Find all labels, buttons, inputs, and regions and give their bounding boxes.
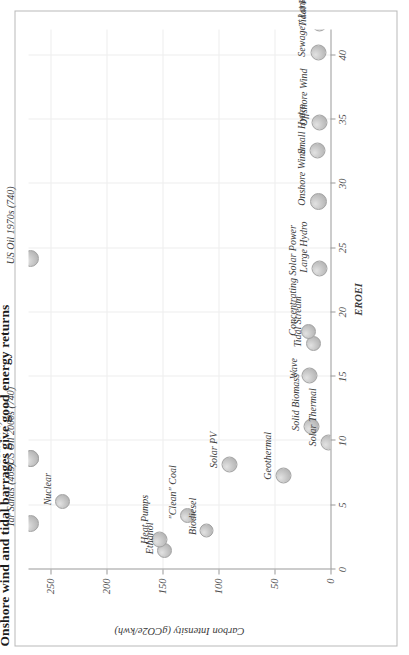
data-point [301, 367, 317, 383]
data-point-label: Heat Pumps [138, 494, 149, 543]
data-point [309, 142, 325, 158]
data-point-label: Solid Biomass [289, 373, 300, 430]
data-point-label: Solar PV [207, 431, 218, 467]
data-point-label: US Oil 1970s (740) [4, 186, 15, 264]
x-tick [330, 375, 335, 376]
data-point-label: Coal (974) [0, 421, 1, 465]
data-point-label: Geothermal [261, 431, 272, 479]
data-point-label: Offshore Wind [297, 68, 308, 126]
data-point [311, 260, 327, 276]
y-tick-label: 150 [157, 578, 168, 594]
x-tick [330, 247, 335, 248]
x-tick [330, 182, 335, 183]
chart-title: Onshore wind and tidal barrages give goo… [0, 6, 12, 646]
data-point [320, 434, 330, 450]
plot-area: 0510152025303540050100150200250 Tar Sand… [28, 29, 330, 569]
data-point [310, 44, 326, 60]
data-point [199, 523, 213, 537]
y-tick [106, 569, 107, 574]
x-tick [330, 118, 335, 119]
data-point-label: Tar Sands (465) [4, 463, 15, 527]
x-axis-label: EROEI [352, 283, 363, 316]
screenshot-root: Onshore wind and tidal barrages give goo… [0, 0, 409, 655]
data-point [309, 193, 326, 210]
data-point-label: Solar Thermal [306, 388, 317, 446]
y-tick [274, 569, 275, 574]
x-tick [330, 311, 335, 312]
data-point [28, 514, 39, 531]
data-point [28, 450, 39, 467]
y-tick-label: 200 [101, 578, 112, 594]
data-point [54, 493, 69, 508]
rotated-figure: Onshore wind and tidal barrages give goo… [0, 0, 409, 655]
data-point-label: Concentrating Solar Power [286, 225, 297, 336]
data-point [311, 114, 327, 130]
y-tick [50, 569, 51, 574]
data-point-label: Tidal Range (87) [296, 0, 307, 27]
y-tick-label: 250 [45, 578, 56, 594]
data-point-label: Large Hydro [297, 221, 308, 272]
data-point-label: Biodiesel [186, 497, 197, 534]
data-point-label: Wave [287, 358, 298, 379]
y-tick [218, 569, 219, 574]
data-point [28, 249, 39, 266]
data-point [221, 456, 237, 472]
x-tick-label: 5 [336, 502, 347, 507]
y-tick-label: 0 [325, 578, 336, 583]
x-tick-label: 0 [336, 566, 347, 571]
y-tick [330, 569, 331, 574]
x-tick-label: 10 [336, 435, 347, 446]
x-tick-label: 25 [336, 242, 347, 253]
x-tick-label: 15 [336, 371, 347, 382]
data-point [311, 29, 327, 31]
marker-layer [28, 29, 330, 569]
y-axis-label: Carbon Intensity (gCO2e/kwh) [114, 626, 244, 637]
x-tick [330, 439, 335, 440]
x-tick [330, 504, 335, 505]
x-tick-label: 30 [336, 178, 347, 189]
y-tick [162, 569, 163, 574]
x-tick-label: 40 [336, 49, 347, 60]
data-point-label: US Oil 2000s (740) [4, 386, 15, 464]
x-tick [330, 54, 335, 55]
x-tick-label: 35 [336, 114, 347, 125]
x-tick-label: 20 [336, 307, 347, 318]
y-tick-label: 100 [213, 578, 224, 594]
data-point-label: Onshore Wind [295, 148, 306, 205]
y-tick-label: 50 [269, 578, 280, 589]
data-point-label: Nuclear [41, 473, 52, 505]
data-point-label: "Clean" Coal [166, 465, 177, 519]
data-point [275, 467, 291, 483]
